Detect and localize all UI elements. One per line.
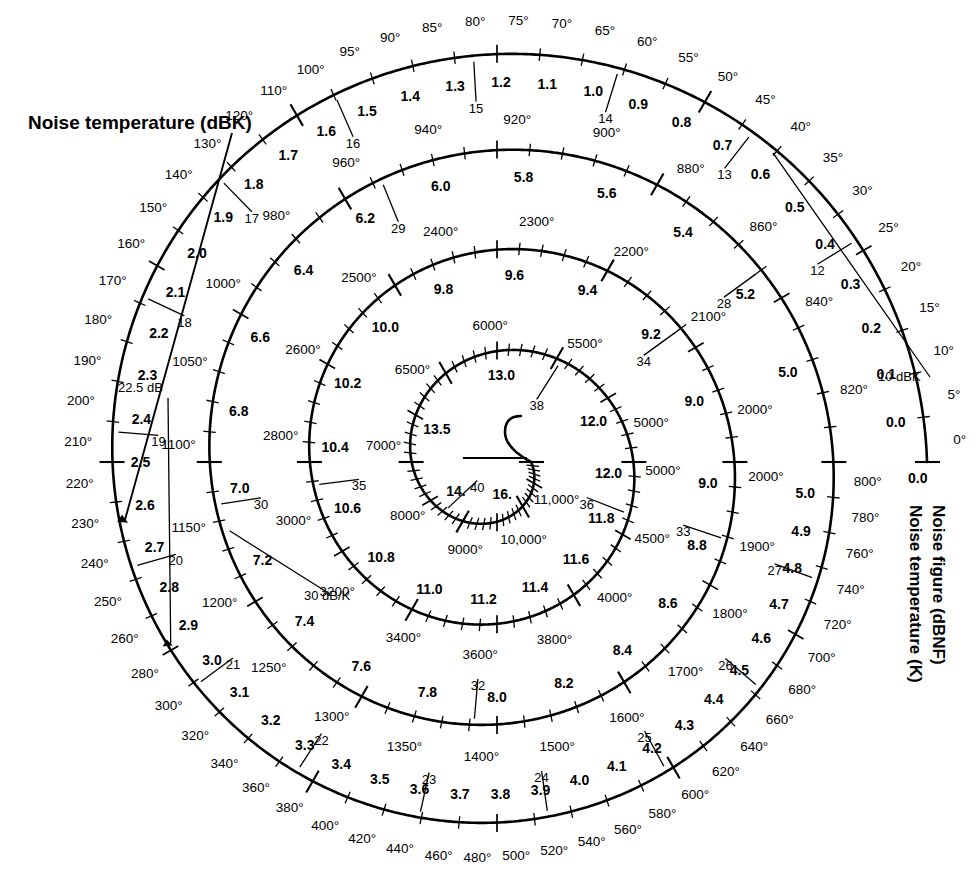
noise-figure-label: 10.0 (372, 319, 399, 335)
noise-figure-label: 9.8 (434, 281, 454, 297)
noise-figure-label: 1.0 (584, 83, 604, 99)
temperature-label: 280° (131, 666, 159, 681)
noise-figure-label: 8.2 (554, 675, 574, 691)
temperature-label: 780° (852, 510, 880, 525)
temperature-label: 250° (94, 594, 122, 609)
temperature-label: 2000° (748, 469, 783, 484)
tick-outer (207, 492, 213, 493)
noise-figure-label: 3.5 (370, 771, 390, 787)
temperature-label: 740° (837, 582, 865, 597)
noise-figure-label: 5.0 (796, 485, 816, 501)
tick-inner (524, 715, 525, 721)
noise-figure-label: 3.8 (491, 786, 511, 802)
temperature-label: 220° (66, 476, 94, 491)
temperature-label: 460° (425, 848, 453, 863)
noise-figure-label: 13.0 (488, 367, 515, 383)
noise-figure-label: 7.2 (253, 552, 273, 568)
tick-inner (455, 58, 456, 64)
dbk-label: 14 (598, 111, 612, 126)
noise-figure-label: 9.2 (641, 326, 661, 342)
temperature-label: 800° (854, 474, 882, 489)
noise-figure-label: 2.1 (166, 284, 186, 300)
temperature-label: 1100° (161, 437, 195, 452)
noise-figure-label: 8.0 (487, 689, 507, 705)
marker-22-5-db: 22.5 dB (118, 380, 163, 395)
dbk-label: 13 (717, 167, 731, 182)
tick-outer (306, 481, 312, 482)
temperature-label: 6500° (395, 362, 430, 377)
temperature-label: 2000° (737, 402, 772, 417)
noise-figure-label: 9.4 (578, 282, 598, 298)
temperature-label: 900° (593, 125, 621, 140)
noise-figure-label: 8.6 (658, 595, 678, 611)
temperature-label: 40° (790, 119, 810, 134)
noise-figure-label: 0.3 (841, 276, 861, 292)
dbk-label: 12 (810, 263, 824, 278)
temperature-label: 230° (71, 516, 99, 531)
temperature-label: 2200° (613, 244, 648, 259)
temperature-label: 340° (210, 756, 238, 771)
temperature-label: 940° (414, 122, 442, 137)
dbk-label: 26 (718, 658, 732, 673)
temperature-label: 680° (788, 682, 816, 697)
tick-outer (490, 523, 491, 529)
temperature-label: 10,000° (500, 532, 547, 547)
noise-figure-label: 7.6 (351, 658, 371, 674)
temperature-label: 2400° (423, 224, 458, 239)
noise-figure-label: 12.0 (580, 413, 607, 429)
noise-temperature-dbk-title: Noise temperature (dBK) (28, 112, 252, 134)
temperature-label: 0° (953, 432, 966, 447)
tick-outer (634, 476, 640, 477)
temperature-label: 920° (503, 112, 531, 127)
temperature-label: 4500° (635, 531, 670, 546)
temperature-label: 35° (823, 150, 843, 165)
noise-figure-label: 0.6 (751, 166, 771, 182)
tick-inner (502, 514, 503, 520)
dbk-label: 21 (226, 657, 240, 672)
noise-figure-label: 5.2 (736, 286, 756, 302)
temperature-label: 80° (465, 14, 485, 29)
temperature-label: 25° (878, 220, 898, 235)
temperature-label: 640° (740, 739, 768, 754)
dbk-label: 17 (245, 211, 259, 226)
noise-figure-label: 1.6 (316, 123, 336, 139)
dbk-label: 20 (169, 553, 183, 568)
noise-figure-label: 4.3 (675, 717, 695, 733)
temperature-label: 580° (649, 806, 677, 821)
temperature-label: 6000° (472, 318, 507, 333)
tick-outer (540, 48, 541, 54)
temperature-label: 2800° (263, 428, 298, 443)
tick-outer (519, 243, 520, 249)
tick-outer (530, 144, 531, 150)
temperature-label: 1150° (171, 520, 205, 535)
nomograph-page: 0°5°10°15°20°25°30°35°40°45°50°55°60°65°… (0, 0, 980, 869)
temperature-label: 500° (502, 848, 530, 863)
temperature-label: 130° (194, 136, 222, 151)
noise-figure-label: 6.0 (431, 178, 451, 194)
tick-inner (469, 719, 470, 725)
temperature-label: 110° (260, 83, 287, 98)
dbk-label: 22 (314, 733, 328, 748)
noise-figure-label: 9.0 (685, 393, 705, 409)
tick-inner (465, 153, 466, 159)
noise-figure-label: 6.8 (229, 403, 249, 419)
noise-figure-label: 0.7 (713, 137, 733, 153)
noise-figure-label: 0.0 (886, 414, 906, 430)
noise-figure-label: 2.7 (145, 539, 165, 555)
tick-outer (464, 147, 465, 153)
noise-figure-label: 16. (492, 486, 511, 502)
noise-figure-label: 3.1 (230, 684, 250, 700)
temperature-label: 10° (934, 343, 954, 358)
tick-inner (628, 476, 634, 477)
noise-figure-label: 0.2 (861, 320, 881, 336)
temperature-label: 1500° (540, 739, 575, 754)
temperature-label: 70° (552, 16, 572, 31)
noise-figure-label: 4.4 (704, 691, 724, 707)
tick-outer (509, 344, 510, 350)
temperature-label: 3600° (462, 647, 497, 662)
noise-figure-label: 5.6 (597, 185, 617, 201)
temperature-label: 980° (262, 208, 290, 223)
dbk-label: 15 (469, 101, 483, 116)
noise-figure-label: 7.8 (418, 684, 438, 700)
noise-figure-label: 8.4 (613, 642, 633, 658)
